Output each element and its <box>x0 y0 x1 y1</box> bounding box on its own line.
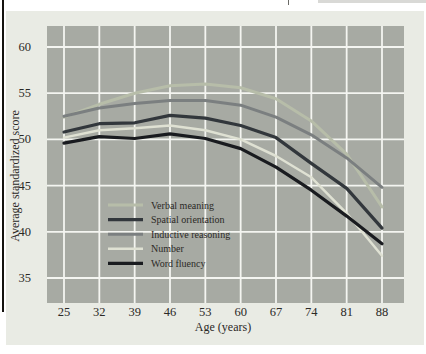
x-tick-label-46: 46 <box>164 305 177 319</box>
x-tick-label-60: 60 <box>234 305 247 319</box>
line-chart: 60555045403525323946536067748188Verbal m… <box>0 0 426 354</box>
plot-panel <box>47 26 404 303</box>
legend-label-inductive-reasoning: Inductive reasoning <box>151 229 230 240</box>
x-tick-label-67: 67 <box>270 305 283 319</box>
figure-page: 60555045403525323946536067748188Verbal m… <box>0 0 426 354</box>
x-tick-label-74: 74 <box>305 305 318 319</box>
x-tick-label-25: 25 <box>58 305 71 319</box>
legend-label-spatial-orientation: Spatial orientation <box>151 214 225 225</box>
x-axis-title: Age (years) <box>195 320 251 335</box>
y-tick-label-55: 55 <box>19 86 32 100</box>
x-tick-label-32: 32 <box>93 305 106 319</box>
y-axis-title: Average standardized score <box>8 110 23 242</box>
x-tick-label-39: 39 <box>128 305 141 319</box>
legend-label-word-fluency: Word fluency <box>151 258 205 269</box>
x-tick-label-53: 53 <box>199 305 212 319</box>
legend-label-number: Number <box>151 243 184 254</box>
legend-label-verbal-meaning: Verbal meaning <box>151 200 214 211</box>
y-tick-label-60: 60 <box>19 40 32 54</box>
y-tick-label-35: 35 <box>19 271 32 285</box>
x-tick-label-88: 88 <box>376 305 389 319</box>
x-tick-label-81: 81 <box>340 305 353 319</box>
